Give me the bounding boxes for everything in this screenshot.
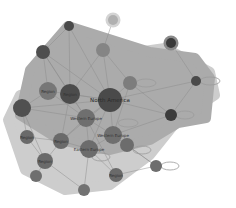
graph-node[interactable]: Region [53, 133, 69, 149]
graph-node[interactable] [191, 76, 201, 86]
node-circle [150, 160, 162, 172]
node-circle [123, 76, 137, 90]
node-circle [30, 170, 42, 182]
node-label: Region [20, 135, 34, 140]
node-label: Region [38, 159, 52, 164]
graph-node[interactable] [106, 13, 121, 28]
node-label: Eastern Europe [74, 147, 105, 152]
node-label: Region [63, 92, 77, 97]
node-circle [120, 138, 134, 152]
graph-node[interactable]: Region [60, 84, 80, 104]
node-circle [36, 45, 50, 59]
graph-node[interactable] [150, 160, 162, 172]
node-circle [191, 76, 201, 86]
node-label: Western Europe [97, 133, 129, 138]
node-circle [78, 184, 90, 196]
node-circle [108, 15, 118, 25]
graph-node[interactable]: Region [37, 153, 53, 169]
node-circle [165, 109, 177, 121]
node-label: Region [54, 139, 68, 144]
node-label: Western Europe [70, 116, 102, 121]
graph-node[interactable] [120, 138, 134, 152]
graph-node[interactable] [30, 170, 42, 182]
graph-node[interactable] [123, 76, 137, 90]
graph-node[interactable] [164, 36, 179, 51]
graph-node[interactable] [165, 109, 177, 121]
graph-node[interactable] [78, 184, 90, 196]
node-label: Region [41, 89, 55, 94]
network-diagram: RegionRegionNorth AmericaWestern EuropeW… [0, 0, 236, 208]
graph-node[interactable] [36, 45, 50, 59]
node-label: North America [90, 97, 130, 103]
graph-node[interactable] [64, 21, 74, 31]
node-circle [96, 43, 110, 57]
node-label: Region [109, 173, 123, 178]
node-circle [13, 99, 31, 117]
node-circle [166, 38, 176, 48]
graph-node[interactable]: Region [39, 82, 57, 100]
graph-node[interactable] [13, 99, 31, 117]
node-circle [64, 21, 74, 31]
graph-node[interactable] [96, 43, 110, 57]
self-loop [161, 162, 179, 170]
